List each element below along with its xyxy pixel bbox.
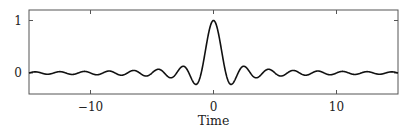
x-tick-label: 0: [210, 100, 218, 114]
x-axis-label: Time: [198, 113, 230, 128]
y-tick-label: 0: [14, 66, 22, 80]
sinc-curve: [29, 21, 398, 85]
sinc-line-chart: −10010 01 Time: [0, 0, 419, 131]
x-tick-label: −10: [78, 100, 103, 114]
x-tick-label: 10: [329, 100, 344, 114]
plot-frame: [29, 10, 398, 94]
y-tick-label: 1: [14, 14, 22, 28]
